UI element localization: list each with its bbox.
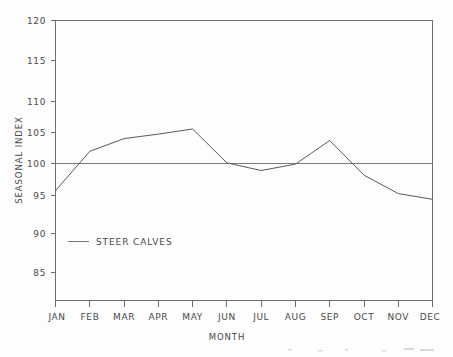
x-tick-label-sep: SEP [320, 312, 339, 322]
legend: STEER CALVES [68, 237, 173, 247]
x-tick-label-jul: JUL [252, 312, 269, 322]
y-tick-label-95: 95 [33, 191, 46, 201]
x-axis-tick-labels: JAN FEB MAR APR MAY JUN JUL AUG SEP OCT … [47, 312, 440, 322]
series-line-steer-calves [56, 129, 433, 199]
x-tick-label-feb: FEB [81, 312, 100, 322]
y-axis-tick-labels: 120 115 110 105 100 95 90 85 [27, 16, 46, 278]
x-tick-label-apr: APR [149, 312, 169, 322]
y-axis-title: SEASONAL INDEX [14, 116, 24, 203]
x-tick-label-nov: NOV [387, 312, 409, 322]
x-axis-ticks [56, 301, 433, 307]
x-tick-label-may: MAY [182, 312, 203, 322]
y-tick-label-110: 110 [27, 97, 46, 107]
y-axis-ticks [51, 21, 56, 273]
scan-artifacts [288, 348, 434, 352]
x-tick-label-oct: OCT [354, 312, 375, 322]
y-tick-label-100: 100 [27, 159, 46, 169]
legend-label-steer-calves: STEER CALVES [96, 237, 173, 247]
plot-frame [56, 21, 433, 301]
x-tick-label-jan: JAN [47, 312, 65, 322]
y-tick-label-115: 115 [27, 56, 46, 66]
x-tick-label-jun: JUN [217, 312, 236, 322]
seasonal-index-line-chart: 120 115 110 105 100 95 90 85 JAN [0, 0, 453, 357]
y-tick-label-120: 120 [27, 16, 46, 26]
x-tick-label-mar: MAR [113, 312, 135, 322]
x-axis-title: MONTH [209, 332, 245, 342]
y-tick-label-105: 105 [27, 128, 46, 138]
y-tick-label-90: 90 [33, 229, 46, 239]
x-tick-label-aug: AUG [285, 312, 307, 322]
y-tick-label-85: 85 [33, 268, 46, 278]
x-tick-label-dec: DEC [420, 312, 441, 322]
chart-screenshot: 120 115 110 105 100 95 90 85 JAN [0, 0, 453, 357]
